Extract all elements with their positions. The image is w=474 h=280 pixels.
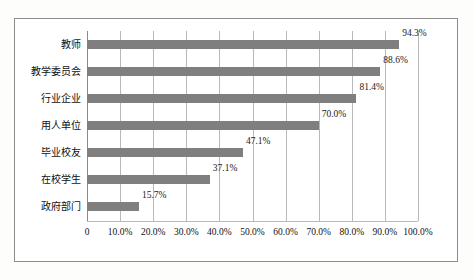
category-label: 毕业校友	[41, 139, 81, 166]
chart-plot-frame: 教师教学委员会行业企业用人单位毕业校友在校学生政府部门 94.3%88.6%81…	[14, 18, 458, 262]
bar-row: 47.1%	[87, 139, 418, 166]
category-axis-labels: 教师教学委员会行业企业用人单位毕业校友在校学生政府部门	[15, 31, 85, 221]
x-tick-label: 90.0%	[373, 225, 398, 239]
bar-series: 94.3%88.6%81.4%70.0%47.1%37.1%15.7%	[87, 31, 418, 221]
bar[interactable]	[87, 121, 319, 130]
x-axis-tick-labels: 010.0%20.0%30.0%40.0%50.0%60.0%70.0%80.0…	[87, 225, 418, 243]
category-label: 在校学生	[41, 166, 81, 193]
bar-row: 37.1%	[87, 166, 418, 193]
bar-row: 81.4%	[87, 85, 418, 112]
x-tick-label: 50.0%	[240, 225, 265, 239]
bar-row: 15.7%	[87, 193, 418, 220]
bar[interactable]	[87, 40, 399, 49]
bar-row: 88.6%	[87, 58, 418, 85]
x-tick-label: 70.0%	[306, 225, 331, 239]
category-label: 教师	[61, 31, 81, 58]
category-label: 用人单位	[41, 112, 81, 139]
x-tick-label: 10.0%	[108, 225, 133, 239]
bar[interactable]	[87, 175, 210, 184]
bar[interactable]	[87, 202, 139, 211]
x-tick-label: 100.0%	[403, 225, 432, 239]
x-axis-baseline	[87, 221, 418, 222]
x-tick-label: 20.0%	[141, 225, 166, 239]
x-tick-label: 0	[85, 225, 90, 239]
x-tick-label: 80.0%	[340, 225, 365, 239]
bar-value-label: 37.1%	[213, 163, 238, 174]
bar-value-label: 15.7%	[142, 190, 167, 201]
bar[interactable]	[87, 148, 243, 157]
bar-row: 94.3%	[87, 31, 418, 58]
x-tick-label: 30.0%	[174, 225, 199, 239]
category-label: 行业企业	[41, 85, 81, 112]
chart-figure: 教师教学委员会行业企业用人单位毕业校友在校学生政府部门 94.3%88.6%81…	[0, 0, 474, 280]
bar-value-label: 88.6%	[383, 55, 408, 66]
gridline-100.0	[418, 31, 419, 221]
bar-value-label: 70.0%	[322, 109, 347, 120]
bar-row: 70.0%	[87, 112, 418, 139]
bar-value-label: 47.1%	[246, 136, 271, 147]
bar-value-label: 81.4%	[359, 82, 384, 93]
category-label: 教学委员会	[31, 58, 81, 85]
category-label: 政府部门	[41, 193, 81, 220]
x-tick-label: 40.0%	[207, 225, 232, 239]
plot-area: 94.3%88.6%81.4%70.0%47.1%37.1%15.7%	[87, 31, 418, 221]
bar[interactable]	[87, 67, 380, 76]
bar-value-label: 94.3%	[402, 28, 427, 39]
bar[interactable]	[87, 94, 356, 103]
x-tick-label: 60.0%	[273, 225, 298, 239]
